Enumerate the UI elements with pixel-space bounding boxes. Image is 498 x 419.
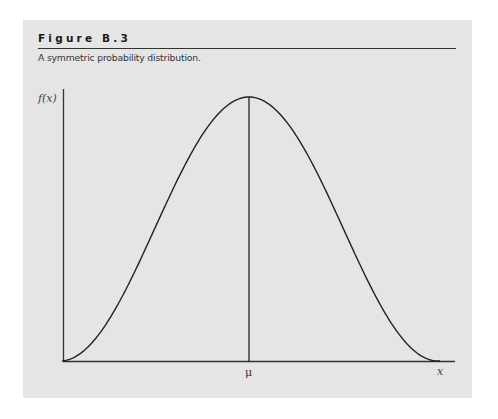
distribution-chart: f(x) μ x bbox=[0, 0, 498, 419]
y-axis-label: f(x) bbox=[37, 92, 57, 105]
mu-label: μ bbox=[245, 366, 252, 379]
x-axis-label: x bbox=[437, 365, 444, 378]
density-curve bbox=[62, 97, 440, 361]
